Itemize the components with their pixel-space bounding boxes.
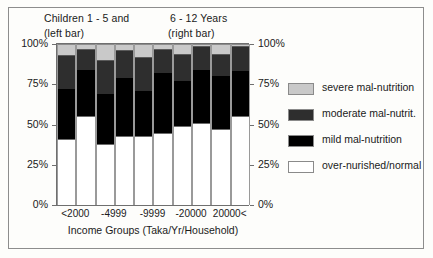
bar-segment	[174, 44, 191, 54]
bar-segment	[116, 136, 133, 205]
bar-segment	[232, 46, 249, 72]
bar-group	[134, 44, 173, 205]
y-axis-left-tick-label: 100%	[10, 37, 48, 49]
bar-segment	[135, 136, 152, 205]
legend-swatch	[288, 161, 314, 173]
bar-age-1-5	[211, 44, 230, 205]
bar-segment	[193, 46, 210, 70]
legend-item: over-nurished/normal	[288, 158, 418, 184]
bar-age-1-5	[134, 44, 153, 205]
bar-age-6-12	[231, 44, 250, 205]
bar-segment	[116, 50, 133, 77]
title-left-line2: (left bar)	[44, 27, 84, 39]
y-axis-left-tick-mark	[52, 205, 56, 206]
bar-segment	[232, 71, 249, 116]
bar-segment	[116, 44, 133, 50]
legend-swatch	[288, 83, 314, 95]
y-axis-left-tick-mark	[52, 44, 56, 45]
bar-segment	[154, 44, 171, 49]
bar-segment	[193, 44, 210, 46]
title-right-line2: (right bar)	[168, 27, 215, 39]
legend-item: mild mal-nutrition	[288, 132, 418, 158]
legend-label: severe mal-nutrition	[322, 81, 414, 93]
y-axis-right-tick-mark	[250, 125, 254, 126]
bar-age-1-5	[57, 44, 76, 205]
chart-figure: Children 1 - 5 and 6 - 12 Years (left ba…	[0, 0, 433, 258]
title-right-line1: 6 - 12 Years	[170, 12, 227, 24]
bar-segment	[174, 54, 191, 81]
bar-segment	[135, 57, 152, 91]
bar-group	[57, 44, 96, 205]
bar-segment	[58, 89, 75, 139]
bar-segment	[58, 55, 75, 89]
bar-age-1-5	[96, 44, 115, 205]
bar-age-6-12	[192, 44, 211, 205]
bar-age-6-12	[115, 44, 134, 205]
bar-segment	[77, 70, 94, 117]
bar-segment	[97, 94, 114, 144]
bar-segment	[174, 81, 191, 126]
y-axis-right-tick-mark	[250, 44, 254, 45]
bar-segment	[212, 44, 229, 54]
bar-segment	[212, 76, 229, 129]
legend-label: over-nurished/normal	[322, 159, 421, 171]
bar-segment	[58, 139, 75, 205]
bar-segment	[193, 123, 210, 205]
legend-label: moderate mal-nutrit.	[322, 107, 416, 119]
legend-swatch	[288, 135, 314, 147]
y-axis-left-tick-label: 50%	[10, 118, 48, 130]
bar-segment	[174, 126, 191, 205]
bar-group	[173, 44, 212, 205]
bar-segment	[193, 70, 210, 123]
bar-segment	[232, 44, 249, 46]
bar-segment	[116, 78, 133, 136]
legend-label: mild mal-nutrition	[322, 133, 402, 145]
y-axis-left-tick-mark	[52, 165, 56, 166]
bar-segment	[135, 91, 152, 136]
bar-group	[211, 44, 250, 205]
chart-title-group: Children 1 - 5 and 6 - 12 Years (left ba…	[44, 12, 274, 46]
bar-age-6-12	[76, 44, 95, 205]
y-axis-right-tick-mark	[250, 165, 254, 166]
title-left-line1: Children 1 - 5 and	[44, 12, 129, 24]
legend-item: moderate mal-nutrit.	[288, 106, 418, 132]
bar-group	[96, 44, 135, 205]
bar-segment	[154, 73, 171, 133]
bar-segment	[212, 54, 229, 77]
bar-segment	[77, 49, 94, 70]
y-axis-right-tick-label: 100%	[258, 37, 298, 49]
legend-item: severe mal-nutrition	[288, 80, 418, 106]
chart-legend: severe mal-nutritionmoderate mal-nutrit.…	[288, 80, 418, 184]
y-axis-left-tick-mark	[52, 125, 56, 126]
x-axis-title: Income Groups (Taka/Yr/Household)	[40, 224, 266, 236]
bar-segment	[77, 116, 94, 205]
bar-segment	[97, 44, 114, 60]
bar-age-6-12	[153, 44, 172, 205]
bar-segment	[77, 44, 94, 49]
bar-segment	[58, 44, 75, 55]
y-axis-right-tick-label: 0%	[258, 198, 298, 210]
y-axis-right-tick-mark	[250, 84, 254, 85]
y-axis-left-tick-label: 25%	[10, 158, 48, 170]
bar-segment	[135, 44, 152, 57]
bar-age-1-5	[173, 44, 192, 205]
plot-baseline	[56, 205, 249, 206]
y-axis-left-tick-label: 75%	[10, 77, 48, 89]
plot-area	[56, 44, 249, 205]
bar-segment	[154, 133, 171, 205]
bar-segment	[232, 116, 249, 205]
bar-segment	[97, 60, 114, 94]
y-axis-left-tick-mark	[52, 84, 56, 85]
x-axis-tick-label: 20000<	[204, 208, 255, 219]
bar-segment	[154, 49, 171, 73]
y-axis-left-tick-label: 0%	[10, 198, 48, 210]
bar-segment	[212, 129, 229, 205]
bar-segment	[97, 144, 114, 205]
y-axis-right-tick-mark	[250, 205, 254, 206]
legend-swatch	[288, 109, 314, 121]
